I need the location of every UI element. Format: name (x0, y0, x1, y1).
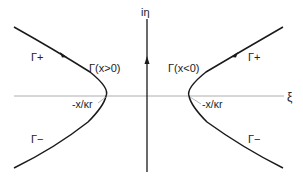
right-contour-arrow-icon (231, 52, 238, 58)
xi-axis-label: ξ (287, 90, 293, 104)
right-vertex-label: -x/κr (202, 98, 223, 110)
left-contour-arrow-icon (60, 52, 67, 58)
eta-axis-arrow-icon (145, 56, 150, 64)
eta-axis-label: iη (141, 6, 150, 18)
left-gamma-minus-label: Γ− (31, 133, 43, 145)
left-contour-curve (14, 27, 107, 168)
right-gamma-plus-label: Γ+ (248, 51, 260, 63)
contour-diagram: iη ξ Γ+ Γ(x>0) -x/κr Γ− Γ(x<0) Γ+ -x/κr … (0, 0, 303, 177)
left-vertex-label: -x/κr (72, 98, 93, 110)
left-contour-name: Γ(x>0) (89, 62, 120, 74)
right-contour-name: Γ(x<0) (168, 62, 199, 74)
right-gamma-minus-label: Γ− (248, 133, 260, 145)
left-gamma-plus-label: Γ+ (31, 51, 43, 63)
